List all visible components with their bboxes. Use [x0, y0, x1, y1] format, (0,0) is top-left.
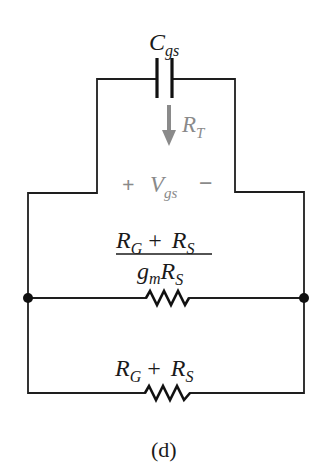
arrow-down-icon [162, 130, 176, 146]
vgs-polarity: + Vgs − [122, 170, 213, 201]
capacitor-label: Cgs [149, 29, 179, 60]
node-left [23, 293, 33, 303]
fraction-denominator: gmRS [137, 258, 183, 288]
resistor-top-label: RG+RS gmRS [115, 227, 212, 288]
capacitor-cgs: Cgs [149, 29, 179, 98]
rt-label: RT [181, 112, 206, 141]
circuit-diagram: Cgs RT + Vgs − RG+RS gmRS [0, 0, 332, 468]
bottom-resistor-text: RG+RS [114, 355, 193, 385]
vgs-label: Vgs [150, 172, 178, 201]
rt-arrow: RT [162, 105, 206, 146]
fraction-numerator: RG+RS [115, 227, 194, 257]
resistor-top-icon [146, 291, 189, 305]
resistor-bottom-label: RG+RS [114, 355, 193, 385]
resistor-bottom-icon [145, 386, 190, 400]
resistor-top-branch [23, 291, 309, 305]
resistor-bottom-branch [145, 386, 190, 400]
plus-sign: + [122, 172, 135, 197]
node-right [299, 293, 309, 303]
upper-loop-wires [28, 79, 304, 393]
figure-caption: (d) [151, 437, 177, 462]
minus-sign: − [199, 170, 213, 196]
